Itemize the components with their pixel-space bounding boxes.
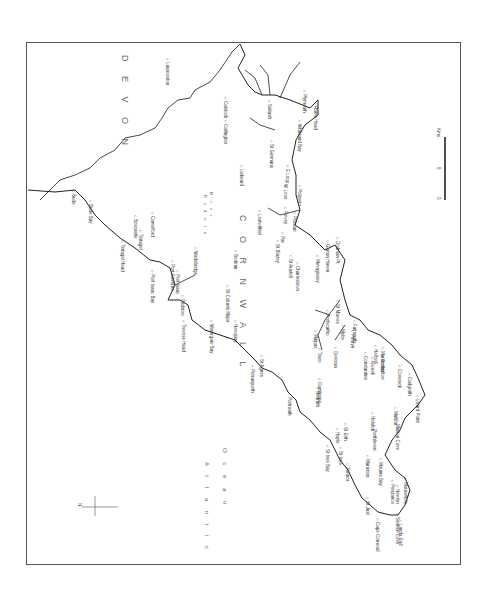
- place-label: ○ Gorran Haven: [325, 240, 330, 272]
- place-label: ○ Wadebridge: [193, 247, 198, 275]
- place-label: ○ Liskeard: [239, 165, 244, 186]
- place-label: ○ St Columb Major: [225, 285, 230, 322]
- place-label: ○ Bude: [71, 190, 76, 204]
- place-label: ○ Polruan: [292, 212, 297, 231]
- place-label: ○ Par: [280, 232, 285, 243]
- moor-label-line1: B o d m i n: [203, 195, 208, 236]
- place-label: ○ Camborne: [317, 378, 322, 403]
- scale-unit: Kms: [436, 128, 441, 137]
- place-label: ○ Watergate Bay: [209, 320, 214, 354]
- place-label: ○ St Ives Bay: [325, 445, 330, 472]
- place-label: ○ Mousehole: [403, 478, 408, 504]
- place-label: ○ St Blazey: [275, 240, 280, 263]
- place-label: ○ Newquay: [233, 320, 238, 343]
- place-label: ○ Truro: [317, 348, 322, 362]
- place-label: ○ Lostwithiel: [257, 210, 262, 235]
- place-label: ○ Portscatho: [325, 310, 330, 335]
- place-label: ○ Port Isaac: [175, 270, 180, 294]
- place-label: ○ Bodmin: [233, 250, 238, 269]
- place-label: ○ Malpas: [313, 330, 318, 348]
- place-label: ○ Cadgwith: [407, 373, 412, 396]
- place-label: ○ Zennor: [345, 463, 350, 481]
- place-label: ○ Marazion: [365, 455, 370, 477]
- place-label: ○ Lizard Point: [415, 395, 420, 423]
- scale-mid: 5: [436, 167, 441, 170]
- place-label: ○ Tintagel: [138, 230, 143, 250]
- place-label: ○ Mylor: [340, 325, 345, 340]
- place-label: ○ St Austell: [288, 255, 293, 278]
- place-label: ○ St Mawes: [335, 300, 340, 324]
- place-label: ○ Dodman Pt: [335, 237, 340, 263]
- place-label: ○ Manaccan: [380, 347, 385, 372]
- ocean-label-line2: O c e a n: [222, 448, 228, 508]
- scale-start: 0: [436, 197, 441, 200]
- place-label: ○ Mevagissey: [315, 255, 320, 283]
- north-arrow: [82, 496, 118, 516]
- place-label: ○ Rame Head: [313, 102, 318, 130]
- place-label: ○ Helford: [373, 345, 378, 363]
- place-label: ○ Mounts Bay: [378, 458, 383, 486]
- place-label: ○ Lands End: [398, 520, 403, 546]
- place-label: ○ Padstow: [180, 295, 185, 316]
- place-label: ○ Fowey: [283, 207, 288, 224]
- ocean-label-line1: A t l a n t i c: [204, 462, 210, 553]
- place-label: ○ Saltash: [267, 100, 272, 119]
- place-label: ○ St Agnes: [259, 355, 264, 377]
- place-label: ○ Polperro: [297, 185, 302, 206]
- place-label: ○ Camelford: [150, 212, 155, 237]
- place-label: ○ Hayle: [335, 428, 340, 443]
- place-label: ○ St Just: [365, 497, 370, 515]
- place-label: ○ Coverack: [397, 365, 402, 388]
- place-label: ○ Portreath: [287, 393, 292, 415]
- place-label: ○ Plymouth: [302, 90, 307, 113]
- moor-label-line2: M o o r: [209, 192, 214, 218]
- north-label: N: [77, 503, 82, 506]
- place-label: ○ St Ives: [338, 447, 343, 465]
- county-label-devon: D E V O N: [120, 55, 130, 151]
- place-label: ○ Falmouth: [352, 320, 357, 343]
- place-label: ○ Trevose Head: [181, 320, 186, 352]
- county-label-cornwall: C O R N W A L L: [238, 215, 248, 372]
- place-label: ○ Launceston: [165, 58, 170, 85]
- place-label: ○ Devoran: [333, 347, 338, 368]
- county-border: [40, 44, 240, 200]
- tamar-estuary: [245, 62, 300, 130]
- place-label: ○ Cape Cornwall: [375, 518, 380, 551]
- place-label: ○ Tintagel Head: [120, 240, 125, 272]
- place-label: ○ St Erth: [343, 423, 348, 441]
- place-label: ○ Port Isaac Bay: [150, 270, 155, 303]
- place-label: ○ Helston: [370, 412, 375, 431]
- place-label: ○ Newlyn: [395, 485, 400, 504]
- place-label: ○ Calstock: [223, 97, 228, 118]
- place-label: ○ W Looe: [283, 180, 288, 199]
- place-label: ○ Mullion: [393, 407, 398, 425]
- place-label: ○ Charlestown: [295, 262, 300, 291]
- place-label: ○ Whitsand Bay: [297, 120, 302, 152]
- place-label: ○ Constantine: [363, 352, 368, 380]
- place-label: ○ St Germans: [269, 140, 274, 168]
- place-label: ○ Callington: [223, 120, 228, 144]
- place-label: ○ Perranporth: [250, 365, 255, 393]
- place-label: ○ Bude Bay: [88, 200, 93, 223]
